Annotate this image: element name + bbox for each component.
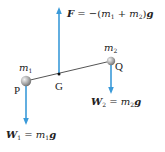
mass-m2-label: m2 [104,43,117,54]
force-w1-g: g [49,129,56,140]
force-w2-arrow [108,64,114,94]
mass-m1-sub: 1 [28,67,32,74]
force-w1-label: W1 = m1g [6,130,56,141]
mass-m2-sub: 2 [113,47,117,54]
force-w2-symbol: W [91,96,102,107]
force-f-m2: m [129,8,138,19]
point-g-label: G [55,81,63,92]
force-f-eq: = −( [74,8,101,19]
force-w1-symbol: W [6,129,17,140]
point-p-label: P [14,85,20,96]
force-w2-g: g [134,96,141,107]
mass-m1-label: m1 [19,63,32,74]
point-q-label: Q [115,61,123,72]
force-w1-m: m [36,129,45,140]
mass-p-ball [21,76,31,86]
force-w1-arrow [23,85,29,125]
force-f-label: F = −(m1 + m2)g [67,9,153,20]
force-f-m1: m [101,8,110,19]
force-f-plus: + [114,8,129,19]
force-f-arrow [56,7,62,74]
center-of-gravity-point [58,73,61,76]
force-f-g: g [146,8,153,19]
force-w2-label: W2 = m2g [91,97,141,108]
force-w2-eq: = [106,96,121,107]
mass-q-ball [107,57,115,65]
force-w1-eq: = [21,129,36,140]
force-w2-m: m [121,96,130,107]
rod [26,61,111,81]
